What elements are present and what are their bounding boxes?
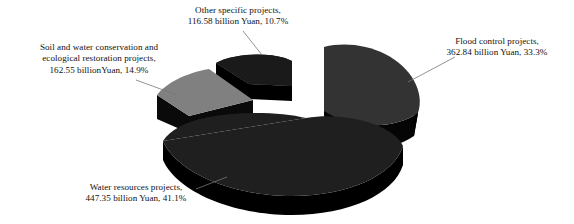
slice-label-flood-line2: 362.84 billion Yuan, 33.3% (424, 47, 570, 58)
slice-label-other: Other specific projects, 116.58 billion … (168, 5, 308, 28)
slice-label-soil-line1: Soil and water conservation and (10, 42, 188, 53)
leader-line-other (243, 31, 262, 55)
slice-label-flood: Flood control projects, 362.84 billion Y… (424, 36, 570, 59)
leader-line-flood (408, 57, 455, 82)
slice-label-water-line2: 447.35 billion Yuan, 41.1% (56, 193, 216, 204)
slice-label-water-line1: Water resources projects, (56, 182, 216, 193)
slice-label-other-line2: 116.58 billion Yuan, 10.7% (168, 16, 308, 27)
pie-slice-flood-top (324, 45, 420, 126)
slice-label-other-line1: Other specific projects, (168, 5, 308, 16)
slice-label-flood-line1: Flood control projects, (424, 36, 570, 47)
slice-label-soil-line3: 162.55 billionYuan, 14.9% (10, 65, 188, 76)
slice-label-water: Water resources projects, 447.35 billion… (56, 182, 216, 205)
slice-label-soil: Soil and water conservation and ecologic… (10, 42, 188, 76)
slice-label-soil-line2: ecological restoration projects, (10, 53, 188, 64)
pie-chart-figure: Other specific projects, 116.58 billion … (0, 0, 574, 224)
